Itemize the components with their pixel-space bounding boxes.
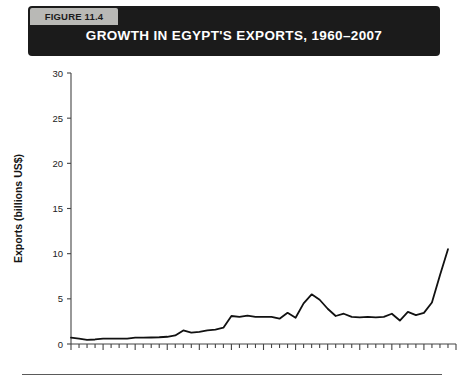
chart-title: GROWTH IN EGYPT'S EXPORTS, 1960–2007 — [28, 28, 440, 43]
svg-text:1988: 1988 — [285, 354, 306, 356]
svg-text:1976: 1976 — [189, 354, 210, 356]
line-chart: 051015202530 196019641968197219761980198… — [0, 56, 468, 356]
y-axis-title: Exports (billions US$) — [12, 154, 24, 263]
svg-text:15: 15 — [52, 203, 63, 214]
svg-text:1964: 1964 — [93, 354, 114, 356]
svg-text:1996: 1996 — [349, 354, 370, 356]
y-axis: 051015202530 — [52, 68, 71, 350]
svg-text:2000: 2000 — [381, 354, 402, 356]
svg-text:1960: 1960 — [60, 354, 81, 356]
svg-text:5: 5 — [58, 293, 63, 304]
bottom-divider — [22, 374, 442, 375]
svg-text:1984: 1984 — [253, 354, 274, 356]
svg-text:1992: 1992 — [317, 354, 338, 356]
svg-text:30: 30 — [52, 68, 63, 79]
svg-text:0: 0 — [58, 339, 63, 350]
svg-text:25: 25 — [52, 113, 63, 124]
svg-text:1972: 1972 — [157, 354, 178, 356]
figure-number-label: FIGURE 11.4 — [45, 11, 104, 22]
figure-header: FIGURE 11.4 GROWTH IN EGYPT'S EXPORTS, 1… — [28, 6, 440, 56]
figure-number-tab: FIGURE 11.4 — [30, 8, 118, 25]
svg-text:2004: 2004 — [413, 354, 434, 356]
svg-text:20: 20 — [52, 158, 63, 169]
x-axis: 1960196419681972197619801984198819921996… — [60, 344, 466, 356]
chart-plot-region: 051015202530 196019641968197219761980198… — [0, 56, 468, 356]
svg-text:1968: 1968 — [125, 354, 146, 356]
svg-text:10: 10 — [52, 248, 63, 259]
exports-line-series — [71, 249, 448, 340]
svg-text:1980: 1980 — [221, 354, 242, 356]
svg-text:2008: 2008 — [445, 354, 466, 356]
